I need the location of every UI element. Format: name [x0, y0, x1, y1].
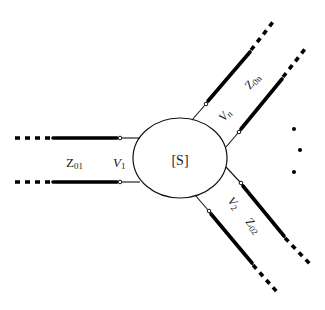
port-2-impedance-label: Z02 — [242, 215, 264, 237]
s-matrix-label: [S] — [171, 153, 188, 168]
port-n-impedance-label: Z0n — [242, 70, 264, 93]
port-n-voltage-label: Vn — [216, 105, 235, 124]
port-1-terminal-bottom — [118, 180, 122, 184]
port-n-terminal-outer — [237, 130, 241, 134]
port-2-voltage-label: V2 — [224, 194, 243, 213]
port-1-terminal-top — [118, 136, 122, 140]
more-ports-ellipsis — [292, 127, 302, 174]
port-n-terminal-inner — [204, 102, 208, 106]
port-2-terminal-inner — [207, 209, 211, 213]
port-2-terminal-outer — [239, 181, 243, 185]
n-port-network-diagram: [S] Z01 V1 Vn Z0n — [0, 0, 325, 310]
port-1-transmission-line — [15, 136, 140, 184]
port-1-impedance-label: Z01 — [66, 155, 83, 171]
port-1-voltage-label: V1 — [113, 155, 125, 171]
